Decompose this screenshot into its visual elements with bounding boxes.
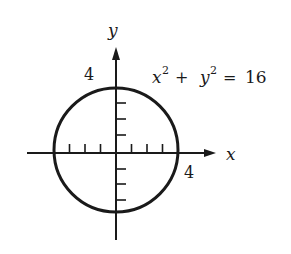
circle-diagram: y x 4 4 x 2 + y 2 = 16 bbox=[0, 0, 291, 254]
svg-text:x: x bbox=[152, 67, 162, 87]
svg-text:2: 2 bbox=[162, 64, 169, 77]
svg-text:16: 16 bbox=[245, 67, 267, 87]
y-axis-label: y bbox=[107, 20, 118, 40]
y-axis-ticks bbox=[116, 103, 126, 200]
x-axis-arrow-icon bbox=[204, 149, 216, 157]
equation-label: x 2 + y 2 = 16 bbox=[152, 64, 267, 87]
x-axis-label: x bbox=[226, 144, 236, 164]
svg-text:=: = bbox=[223, 68, 236, 87]
y-tick-label-4: 4 bbox=[84, 65, 94, 84]
y-axis-arrow-icon bbox=[112, 47, 120, 60]
svg-text:2: 2 bbox=[210, 64, 217, 77]
svg-text:+: + bbox=[175, 68, 188, 87]
svg-text:y: y bbox=[199, 67, 210, 87]
x-tick-label-4: 4 bbox=[184, 163, 194, 182]
